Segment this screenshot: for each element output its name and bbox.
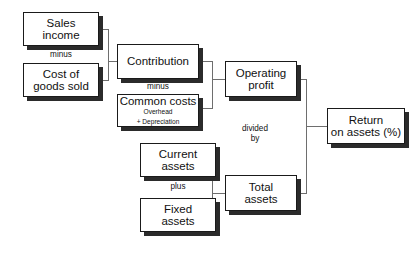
connector-sales-to-contribution: sales-to-contribution bbox=[99, 29, 117, 61]
operator-minus-top: minus bbox=[43, 50, 79, 60]
node-label-sales-income: income bbox=[42, 29, 79, 41]
operator-minus-middle: minus bbox=[140, 82, 176, 92]
operator-label-divided-by: divided bbox=[233, 124, 277, 134]
node-cost-of-goods-sold[interactable]: Cost ofgoods sold bbox=[23, 63, 99, 97]
node-label-fixed-assets: Fixed bbox=[164, 203, 192, 215]
node-label-cost-of-goods-sold: goods sold bbox=[33, 80, 89, 92]
operator-plus: plus bbox=[160, 182, 196, 192]
node-label-return-on-assets: on assets (%) bbox=[331, 126, 401, 138]
node-label-common-costs: Common costs bbox=[120, 95, 197, 107]
node-sales-income[interactable]: Salesincome bbox=[23, 12, 99, 46]
node-sublabel-common-costs: Overhead bbox=[144, 108, 173, 116]
node-contribution[interactable]: Contribution bbox=[117, 44, 199, 79]
node-return-on-assets[interactable]: Returnon assets (%) bbox=[327, 108, 405, 144]
node-label-current-assets: assets bbox=[161, 160, 194, 172]
node-label-contribution: Contribution bbox=[127, 55, 189, 67]
connector-common-costs-to-operating-profit: common-costs-to-operating-profit bbox=[199, 79, 212, 108]
connector-contribution-to-operating-profit: contribution-to-operating-profit bbox=[199, 61, 225, 79]
diagram-canvas: sales-to-contributioncogs-to-contributio… bbox=[0, 0, 420, 254]
node-label-total-assets: assets bbox=[244, 193, 277, 205]
node-fixed-assets[interactable]: Fixedassets bbox=[140, 198, 216, 232]
operator-label-minus-top: minus bbox=[43, 50, 79, 60]
node-label-current-assets: Current bbox=[159, 148, 197, 160]
operator-label-divided-by: by bbox=[233, 134, 277, 144]
node-common-costs[interactable]: Common costsOverhead+ Depreciation bbox=[117, 94, 199, 127]
connector-cogs-to-contribution: cogs-to-contribution bbox=[99, 61, 108, 80]
connector-total-assets-to-return: total-assets-to-return bbox=[297, 126, 306, 193]
operator-label-minus-middle: minus bbox=[140, 82, 176, 92]
node-current-assets[interactable]: Currentassets bbox=[140, 143, 216, 177]
operator-divided-by: dividedby bbox=[233, 124, 277, 144]
node-label-operating-profit: profit bbox=[248, 79, 274, 91]
node-label-return-on-assets: Return bbox=[349, 114, 384, 126]
connector-operating-profit-to-return: operating-profit-to-return bbox=[297, 79, 327, 126]
operator-label-plus: plus bbox=[160, 182, 196, 192]
node-label-cost-of-goods-sold: Cost of bbox=[43, 68, 79, 80]
node-label-operating-profit: Operating bbox=[236, 67, 287, 79]
node-label-fixed-assets: assets bbox=[161, 215, 194, 227]
node-label-sales-income: Sales bbox=[47, 17, 76, 29]
node-sublabel-common-costs: + Depreciation bbox=[137, 118, 180, 126]
node-operating-profit[interactable]: Operatingprofit bbox=[225, 61, 297, 97]
node-total-assets[interactable]: Totalassets bbox=[225, 175, 297, 211]
node-label-total-assets: Total bbox=[249, 181, 273, 193]
